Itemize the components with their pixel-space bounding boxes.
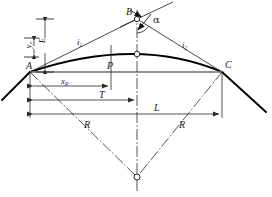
label-length-L: L: [154, 103, 160, 113]
label-grade-in: i1: [77, 38, 82, 47]
marker-center: [134, 174, 140, 180]
label-offset-yp-sub: P: [29, 42, 34, 45]
point-label-P: P: [107, 61, 113, 71]
point-label-A: A: [26, 61, 32, 71]
label-grade-out: i2: [182, 41, 187, 50]
point-label-B: B: [126, 7, 132, 17]
label-tangent-T: T: [99, 90, 105, 100]
label-distance-xp: xP: [61, 77, 68, 86]
label-distance-xp-sub: P: [65, 81, 68, 87]
label-offset-yp: yP: [25, 42, 33, 49]
label-grade-in-sub: 1: [80, 42, 83, 48]
marker-apex: [134, 51, 140, 57]
label-radius-left: R: [84, 120, 90, 130]
point-label-C: C: [225, 60, 232, 70]
radius-lines: [30, 72, 222, 177]
dimension-E: [36, 19, 54, 72]
diagram-canvas: [0, 0, 272, 197]
label-external-E: E: [38, 38, 47, 44]
witness-lines: [30, 62, 222, 118]
marker-B: [134, 16, 139, 21]
label-grade-out-sub: 2: [185, 45, 188, 51]
label-radius-right: R: [179, 120, 185, 130]
label-offset-yp-text: y: [24, 45, 33, 49]
vertical-curve-diagram: A B C P i1 i2 α E yP xP T L R R: [0, 0, 272, 197]
label-alpha: α: [153, 15, 160, 25]
